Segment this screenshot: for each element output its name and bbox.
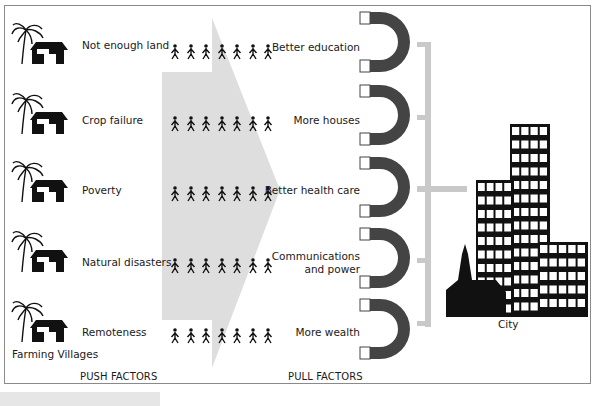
migrant-person-icon bbox=[217, 258, 227, 274]
migrant-person-icon bbox=[217, 116, 227, 132]
migrant-person-icon bbox=[248, 258, 258, 274]
migrant-person-icon bbox=[170, 116, 180, 132]
migrant-person-icon bbox=[232, 116, 242, 132]
pull-factor-label: Better education bbox=[270, 41, 360, 53]
migrant-person-icon bbox=[170, 44, 180, 60]
migrant-person-icon bbox=[201, 258, 211, 274]
pull-factor-label: Better health care bbox=[255, 184, 360, 196]
migrant-person-icon bbox=[186, 44, 196, 60]
migrant-person-icon bbox=[186, 186, 196, 202]
migrant-person-icon bbox=[186, 328, 196, 344]
push-factor-label: Not enough land bbox=[82, 39, 169, 51]
migrant-person-icon bbox=[170, 258, 180, 274]
migrant-person-icon bbox=[232, 328, 242, 344]
pull-factor-label-line2: and power bbox=[260, 263, 360, 275]
village-house-icon bbox=[10, 92, 78, 136]
pull-factor-label: Communications bbox=[260, 250, 360, 262]
pull-factors-heading: PULL FACTORS bbox=[288, 371, 363, 382]
migrant-person-icon bbox=[201, 328, 211, 344]
village-house-icon bbox=[10, 22, 78, 66]
push-factor-label: Poverty bbox=[82, 184, 122, 196]
magnet-icon bbox=[358, 83, 420, 147]
migrant-person-icon bbox=[232, 258, 242, 274]
migrant-person-icon bbox=[201, 44, 211, 60]
village-house-icon bbox=[10, 160, 78, 204]
migrant-person-icon bbox=[248, 44, 258, 60]
migrant-person-icon bbox=[170, 186, 180, 202]
migrant-person-icon bbox=[170, 328, 180, 344]
village-house-icon bbox=[10, 230, 78, 274]
push-factor-label: Remoteness bbox=[82, 326, 147, 338]
push-factor-label: Natural disasters bbox=[82, 256, 171, 268]
migrant-person-icon bbox=[186, 258, 196, 274]
magnet-icon bbox=[358, 226, 420, 290]
migrant-person-icon bbox=[217, 328, 227, 344]
pull-factor-label: More houses bbox=[270, 114, 360, 126]
farming-villages-label: Farming Villages bbox=[12, 348, 98, 360]
migrant-person-icon bbox=[217, 186, 227, 202]
city-label: City bbox=[498, 318, 519, 330]
migrant-person-icon bbox=[217, 44, 227, 60]
migrant-person-icon bbox=[232, 186, 242, 202]
migrant-person-icon bbox=[248, 328, 258, 344]
village-house-icon bbox=[10, 300, 78, 344]
migrant-person-icon bbox=[248, 116, 258, 132]
migrant-person-icon bbox=[201, 116, 211, 132]
push-factor-label: Crop failure bbox=[82, 114, 143, 126]
magnet-icon bbox=[358, 155, 420, 219]
migrant-person-icon bbox=[232, 44, 242, 60]
magnet-icon bbox=[358, 297, 420, 361]
migrant-person-icon bbox=[201, 186, 211, 202]
pull-factor-label: More wealth bbox=[270, 326, 360, 338]
push-factors-heading: PUSH FACTORS bbox=[80, 371, 157, 382]
magnet-icon bbox=[358, 10, 420, 74]
city-skyline-icon bbox=[440, 120, 590, 325]
migrant-person-icon bbox=[186, 116, 196, 132]
